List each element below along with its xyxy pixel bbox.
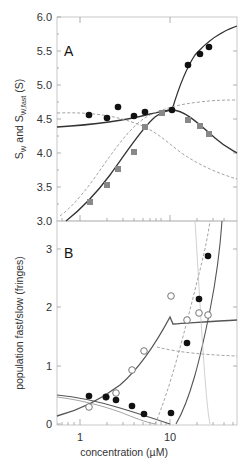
- panel-a-y-axis-label: SW and SW,fast (S): [13, 79, 27, 159]
- ytick: 5.0: [37, 79, 52, 91]
- panel-a-squares: [87, 110, 212, 205]
- x-axis-label: concentration (µM): [80, 446, 168, 458]
- figure: 6.0 5.5 5.0 4.5 4.0 3.5 3.0 3 2 1 0 1 10…: [0, 0, 248, 468]
- xtick: 1: [77, 431, 83, 443]
- panel-b-label: B: [64, 245, 73, 261]
- panel-b-yticks: [57, 249, 237, 424]
- xtick: 10: [164, 431, 176, 443]
- panel-b-curves: [57, 221, 237, 424]
- panel-a-circles: [86, 44, 213, 122]
- ytick: 4.5: [37, 113, 52, 125]
- panel-b-frame: [57, 221, 237, 425]
- ytick: 3.0: [37, 215, 52, 227]
- panel-b-y-axis-label: population fast/slow (fringes): [13, 256, 25, 390]
- ytick: 3: [46, 243, 52, 255]
- ytick: 1: [46, 360, 52, 372]
- panel-b-filled-circles: [86, 253, 212, 418]
- ytick: 4.0: [37, 147, 52, 159]
- ytick: 6.0: [37, 11, 52, 23]
- panel-a-ytick-labels: 6.0 5.5 5.0 4.5 4.0 3.5 3.0: [37, 11, 52, 227]
- ytick: 2: [46, 301, 52, 313]
- ytick: 3.5: [37, 181, 52, 193]
- ytick: 5.5: [37, 45, 52, 57]
- panel-a-curves: [57, 26, 237, 221]
- panel-b-ytick-labels: 3 2 1 0: [46, 243, 52, 430]
- panel-a-label: A: [64, 43, 74, 59]
- ytick: 0: [46, 418, 52, 430]
